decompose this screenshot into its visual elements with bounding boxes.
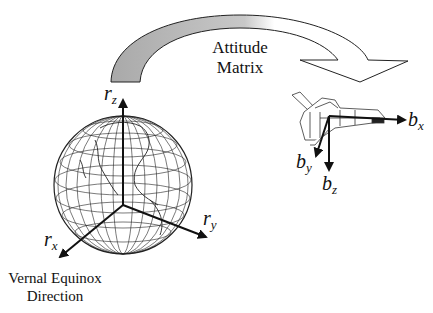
by-base: b: [296, 150, 306, 172]
attitude-matrix-label: Attitude Matrix: [200, 38, 280, 78]
rz-sub: z: [112, 92, 117, 107]
bx-base: b: [408, 108, 418, 130]
bz-base: b: [322, 172, 332, 194]
rz-label: rz: [104, 82, 117, 108]
rx-sub: x: [52, 238, 58, 253]
bz-sub: z: [332, 182, 337, 197]
by-label: by: [296, 150, 312, 176]
rz-base: r: [104, 82, 112, 104]
bx-sub: x: [418, 118, 424, 133]
bx-label: bx: [408, 108, 424, 134]
bz-label: bz: [322, 172, 337, 198]
vernal-equinox-caption: Vernal Equinox Direction: [0, 269, 110, 305]
rx-base: r: [44, 228, 52, 250]
caption-line1: Vernal Equinox: [0, 269, 110, 287]
attitude-matrix-line2: Matrix: [200, 58, 280, 78]
rx-label: rx: [44, 228, 58, 254]
by-sub: y: [306, 160, 312, 175]
ry-label: ry: [203, 207, 217, 233]
attitude-matrix-line1: Attitude: [200, 38, 280, 58]
caption-line2: Direction: [0, 287, 110, 305]
ry-base: r: [203, 207, 211, 229]
ry-sub: y: [211, 217, 217, 232]
